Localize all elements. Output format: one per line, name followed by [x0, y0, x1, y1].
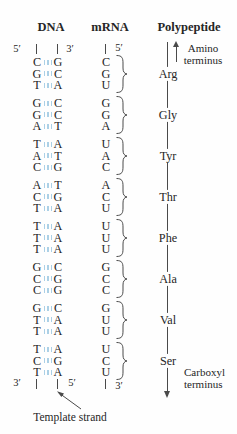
- codon-brace-icon: [114, 54, 128, 94]
- hydrogen-bond-icon: [44, 235, 46, 240]
- hydrogen-bond-icon: [44, 71, 46, 76]
- hydrogen-bond-icon: [51, 124, 53, 129]
- hydrogen-bond-icon: [51, 265, 53, 270]
- mrna-3prime-bottom: 3′: [115, 381, 123, 392]
- dna-coding-base: A: [33, 120, 42, 132]
- hydrogen-bond-icon: [51, 347, 53, 352]
- hydrogen-bond-icon: [44, 347, 46, 352]
- hydrogen-bond-icon: [47, 124, 49, 129]
- carboxyl-direction-arrowhead-icon: [164, 391, 170, 398]
- hydrogen-bond-icon: [44, 358, 46, 363]
- dna-coding-base: T: [33, 79, 40, 91]
- template-strand-arrow-icon: [50, 388, 86, 412]
- hydrogen-bond-icon: [47, 153, 49, 158]
- hydrogen-bond-icon: [44, 329, 46, 334]
- hydrogen-bond-icon: [47, 142, 49, 147]
- dna-template-base: A: [54, 366, 63, 378]
- hydrogen-bond-icon: [51, 247, 53, 252]
- hydrogen-bond-icon: [44, 224, 46, 229]
- hydrogen-bond-icon: [51, 183, 53, 188]
- amino-acid-label: Arg: [157, 66, 180, 80]
- hydrogen-bond-icon: [47, 306, 49, 311]
- hydrogen-bond-icon: [51, 224, 53, 229]
- hydrogen-bond-icon: [47, 329, 49, 334]
- dna-coding-base: C: [33, 161, 41, 173]
- mrna-base: U: [102, 243, 111, 255]
- dna-template-base: A: [54, 325, 63, 337]
- hydrogen-bond-icon: [51, 83, 53, 88]
- hydrogen-bond-icon: [47, 358, 49, 363]
- hydrogen-bond-icon: [51, 206, 53, 211]
- hydrogen-bond-icon: [51, 276, 53, 281]
- polypeptide-chain-line: [167, 42, 168, 396]
- hydrogen-bond-icon: [44, 101, 46, 106]
- hydrogen-bond-icon: [44, 83, 46, 88]
- dna-template-base: A: [54, 79, 63, 91]
- hydrogen-bond-icon: [44, 306, 46, 311]
- hydrogen-bond-icon: [44, 153, 46, 158]
- hydrogen-bond-icon: [47, 101, 49, 106]
- hydrogen-bond-icon: [44, 165, 46, 170]
- mrna-base: C: [102, 161, 110, 173]
- hydrogen-bond-icon: [47, 317, 49, 322]
- hydrogen-bond-icon: [47, 60, 49, 65]
- mrna-base: U: [102, 325, 111, 337]
- dna-left-strand-5prime-top: 5′: [13, 44, 21, 55]
- carboxyl-terminus-label: Carboxyl terminus: [184, 367, 236, 390]
- hydrogen-bond-icon: [51, 142, 53, 147]
- amino-acid-label: Thr: [157, 189, 179, 203]
- translation-diagram: DNA mRNA Polypeptide 5′ 3′ 5′ Amino term…: [0, 0, 237, 434]
- hydrogen-bond-icon: [51, 60, 53, 65]
- hydrogen-bond-icon: [44, 370, 46, 375]
- amino-acid-label: Gly: [157, 107, 179, 121]
- dna-coding-base: T: [33, 325, 40, 337]
- hydrogen-bond-icon: [47, 235, 49, 240]
- amino-acid-label: Tyr: [158, 148, 179, 162]
- hydrogen-bond-icon: [44, 124, 46, 129]
- dna-left-strand-3prime-bottom: 3′: [13, 378, 21, 389]
- codon-brace-icon: [114, 259, 128, 299]
- hydrogen-bond-icon: [47, 71, 49, 76]
- hydrogen-bond-icon: [47, 247, 49, 252]
- dna-right-strand-5prime-bottom: 5′: [68, 378, 76, 389]
- hydrogen-bond-icon: [51, 101, 53, 106]
- dna-template-base: G: [54, 161, 63, 173]
- codon-brace-icon: [114, 341, 128, 381]
- hydrogen-bond-icon: [51, 306, 53, 311]
- hydrogen-bond-icon: [51, 112, 53, 117]
- hydrogen-bond-icon: [47, 276, 49, 281]
- mrna-base: C: [102, 284, 110, 296]
- mrna-base: U: [102, 366, 111, 378]
- amino-acid-label: Ser: [158, 353, 178, 367]
- mrna-strand-tick-bottom: [105, 379, 106, 389]
- template-strand-label: Template strand: [33, 412, 107, 424]
- hydrogen-bond-icon: [47, 265, 49, 270]
- codon-brace-icon: [114, 177, 128, 217]
- mrna-base: A: [102, 120, 111, 132]
- hydrogen-bond-icon: [47, 206, 49, 211]
- hydrogen-bond-icon: [51, 358, 53, 363]
- hydrogen-bond-icon: [51, 235, 53, 240]
- hydrogen-bond-icon: [51, 153, 53, 158]
- amino-terminus-label: Amino terminus: [176, 43, 230, 66]
- codon-brace-icon: [114, 218, 128, 258]
- hydrogen-bond-icon: [51, 194, 53, 199]
- dna-right-strand-tick-top: [57, 44, 58, 54]
- dna-right-strand-3prime-top: 3′: [66, 44, 74, 55]
- dna-template-base: A: [54, 243, 63, 255]
- hydrogen-bond-icon: [47, 112, 49, 117]
- mrna-strand-tick-top: [105, 44, 106, 54]
- hydrogen-bond-icon: [51, 370, 53, 375]
- hydrogen-bond-icon: [51, 288, 53, 293]
- polypeptide-column-header: Polypeptide: [157, 21, 220, 34]
- hydrogen-bond-icon: [44, 317, 46, 322]
- hydrogen-bond-icon: [47, 165, 49, 170]
- hydrogen-bond-icon: [47, 288, 49, 293]
- mrna-base: U: [102, 202, 111, 214]
- hydrogen-bond-icon: [51, 71, 53, 76]
- hydrogen-bond-icon: [44, 288, 46, 293]
- dna-coding-base: T: [33, 202, 40, 214]
- codon-brace-icon: [114, 136, 128, 176]
- hydrogen-bond-icon: [47, 224, 49, 229]
- hydrogen-bond-icon: [51, 329, 53, 334]
